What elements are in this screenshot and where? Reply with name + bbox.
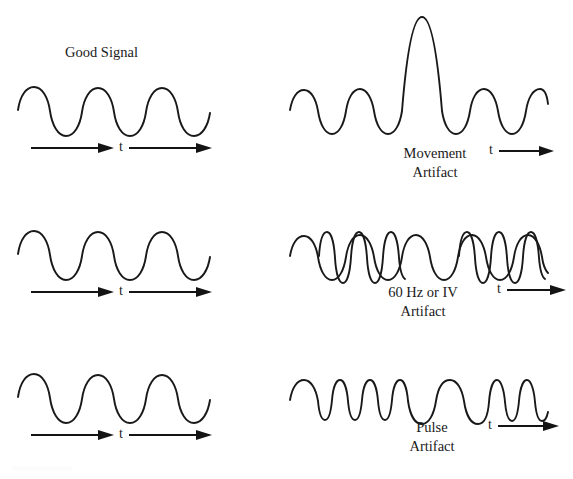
movement-artifact-caption-line2: Artifact: [375, 163, 495, 182]
time-axis-4: t: [497, 282, 566, 298]
right-arrow-icon: [506, 283, 566, 297]
right-arrow-icon: [30, 428, 114, 442]
movement-artifact-caption-line1: Movement: [375, 144, 495, 163]
good-signal-title: Good Signal: [65, 44, 138, 61]
pulse-artifact-caption-line1: Pulse: [372, 418, 492, 437]
right-arrow-icon: [497, 419, 559, 433]
signal-artifacts-figure: Good Signal t Movement Artifact t: [0, 0, 573, 479]
time-axis-5: t: [30, 427, 212, 443]
sixty-hz-artifact-wave: [288, 226, 550, 288]
good-signal-wave-panel-1: [16, 84, 216, 140]
time-symbol-label: t: [488, 418, 497, 434]
right-arrow-icon: [498, 144, 554, 158]
right-arrow-icon: [128, 141, 212, 155]
time-axis-1: t: [30, 140, 212, 156]
pulse-artifact-caption-line2: Artifact: [372, 437, 492, 456]
time-axis-6: t: [488, 418, 559, 434]
time-symbol-label: t: [489, 143, 498, 159]
right-arrow-icon: [30, 285, 114, 299]
sixty-hz-artifact-wave-panel: [288, 226, 550, 288]
movement-artifact-wave-panel: [288, 14, 550, 140]
right-arrow-icon: [128, 285, 212, 299]
pulse-artifact-caption: Pulse Artifact: [372, 418, 492, 455]
sixty-hz-artifact-caption-line2: Artifact: [358, 302, 488, 321]
time-symbol-label: t: [497, 282, 506, 298]
time-symbol-label: t: [114, 140, 128, 156]
clean-sine-wave-2: [16, 228, 216, 284]
time-symbol-label: t: [114, 284, 128, 300]
time-axis-2: t: [489, 143, 554, 159]
time-symbol-label: t: [114, 427, 128, 443]
good-signal-wave-panel-2: [16, 228, 216, 284]
good-signal-wave-panel-3: [16, 371, 216, 427]
movement-artifact-caption: Movement Artifact: [375, 144, 495, 181]
time-axis-3: t: [30, 284, 212, 300]
clean-sine-wave-3: [16, 371, 216, 427]
right-arrow-icon: [30, 141, 114, 155]
page-edge-artifact: [12, 466, 72, 471]
sixty-hz-artifact-caption-line1: 60 Hz or IV: [358, 283, 488, 302]
sixty-hz-artifact-caption: 60 Hz or IV Artifact: [358, 283, 488, 320]
right-arrow-icon: [128, 428, 212, 442]
clean-sine-wave-1: [16, 84, 216, 140]
movement-artifact-wave: [288, 14, 550, 140]
